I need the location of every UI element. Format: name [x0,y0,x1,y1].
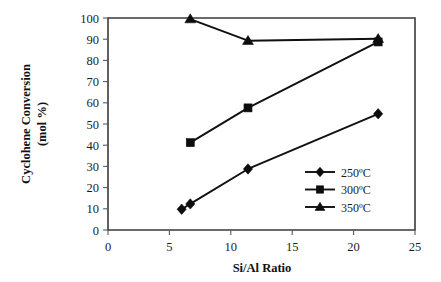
y-tick-label: 30 [87,160,100,174]
y-tick-label: 20 [87,181,100,195]
y-tick-label: 80 [87,54,100,68]
data-point-marker [244,104,252,112]
x-tick-label: 15 [286,240,299,254]
y-tick-label: 100 [80,12,99,26]
y-tick-label: 50 [87,118,100,132]
x-axis-title: Si/Al Ratio [233,261,292,275]
data-series [177,109,383,215]
series-line [190,42,378,143]
y-tick-label: 40 [87,139,100,153]
line-chart: 0510152025 0102030405060708090100 250ºC3… [0,0,441,282]
legend-marker [316,167,324,177]
legend-item: 300ºC [305,183,371,197]
y-tick-label: 70 [87,75,100,89]
x-tick-label: 20 [347,240,360,254]
data-point-marker [243,164,252,174]
chart-figure: 0510152025 0102030405060708090100 250ºC3… [0,0,441,282]
legend-label: 300ºC [341,183,371,197]
series-line [190,19,378,41]
x-axis-tick-labels: 0510152025 [105,240,421,254]
data-series [186,38,382,147]
x-tick-label: 5 [166,240,172,254]
y-axis-tick-labels: 0102030405060708090100 [80,12,99,238]
y-axis-title-line2: (mol %) [35,102,49,146]
y-tick-label: 10 [87,202,100,216]
x-tick-label: 0 [105,240,111,254]
legend-item: 250ºC [305,166,371,180]
plot-frame [108,18,415,230]
data-point-marker [186,199,195,209]
legend-item: 350ºC [305,201,371,215]
legend-label: 250ºC [341,166,371,180]
y-tick-label: 90 [87,33,100,47]
chart-legend: 250ºC300ºC350ºC [305,166,371,215]
y-tick-label: 0 [93,224,99,238]
data-point-marker [186,139,194,147]
x-tick-label: 10 [225,240,238,254]
data-point-marker [177,204,186,214]
y-tick-label: 60 [87,96,100,110]
data-point-marker [374,109,383,119]
x-tick-label: 25 [409,240,422,254]
y-axis-title-line1: Cyclohene Conversion [19,64,33,184]
legend-label: 350ºC [341,201,371,215]
legend-marker [316,186,323,193]
